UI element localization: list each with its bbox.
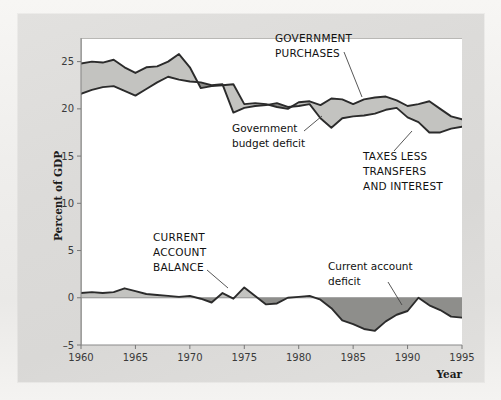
annotations: GOVERNMENTPURCHASESGovernmentbudget defi… (153, 32, 443, 305)
annotation-line: AND INTEREST (363, 180, 443, 192)
leader-line-current-account-balance (207, 270, 228, 288)
fill-government-budget-deficit-light (81, 54, 198, 96)
x-tick-label: 1990 (395, 352, 420, 363)
annotation-line: Current account (328, 260, 413, 272)
annotation-line: BALANCE (153, 261, 204, 273)
y-tick-label: 5 (68, 245, 74, 256)
x-tick-label: 1965 (123, 352, 148, 363)
x-tick-label: 1970 (177, 352, 202, 363)
area-fills (81, 54, 462, 331)
x-axis-title: Year (435, 368, 462, 380)
leader-line-government-budget-deficit (304, 116, 322, 131)
y-tick-label: –5 (63, 340, 74, 351)
fill-current-account-deficit (315, 298, 418, 331)
annotation-current-account-balance: CURRENTACCOUNTBALANCE (153, 231, 207, 273)
chart-svg: 2520151050–51960196519701975198019851990… (0, 0, 501, 400)
annotation-taxes-less-transfers-and-interest: TAXES LESSTRANSFERSAND INTEREST (362, 150, 443, 192)
annotation-line: CURRENT (153, 231, 205, 243)
x-tick-label: 1995 (449, 352, 474, 363)
y-tick-label: 0 (68, 292, 74, 303)
annotation-line: GOVERNMENT (275, 32, 353, 44)
annotation-government-purchases: GOVERNMENTPURCHASES (275, 32, 353, 59)
leader-line-government-purchases (344, 52, 362, 97)
annotation-current-account-deficit: Current accountdeficit (328, 260, 413, 287)
annotation-line: ACCOUNT (153, 246, 207, 258)
annotation-line: deficit (328, 275, 361, 287)
figure-page: 2520151050–51960196519701975198019851990… (0, 0, 501, 400)
annotation-line: budget deficit (232, 137, 305, 149)
series-lines (81, 54, 462, 331)
y-tick-label: 25 (61, 56, 74, 67)
annotation-line: TRANSFERS (362, 165, 427, 177)
x-tick-label: 1975 (232, 352, 257, 363)
axis-tick-labels: 2520151050–51960196519701975198019851990… (61, 56, 474, 363)
fill-current-account-deficit (418, 298, 462, 318)
y-axis-title: Percent of GDP (52, 151, 64, 241)
y-tick-label: 20 (61, 103, 74, 114)
leader-line-taxes-less-transfers-and-interest (394, 131, 412, 151)
x-tick-label: 1960 (68, 352, 93, 363)
annotation-line: TAXES LESS (362, 150, 428, 162)
x-tick-label: 1985 (340, 352, 365, 363)
x-tick-label: 1980 (286, 352, 311, 363)
annotation-line: PURCHASES (275, 47, 340, 59)
annotation-line: Government (232, 122, 297, 134)
annotation-government-budget-deficit: Governmentbudget deficit (232, 122, 305, 149)
